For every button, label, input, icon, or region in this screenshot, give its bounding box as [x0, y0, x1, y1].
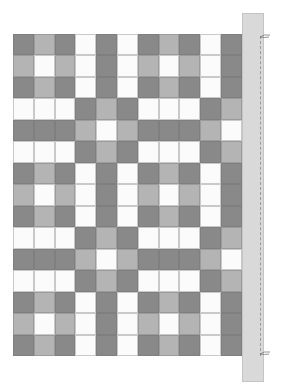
quilt-cell [75, 98, 96, 119]
quilt-cell [55, 77, 76, 98]
quilt-cell [221, 77, 242, 98]
quilt-cell [200, 120, 221, 141]
quilt-cell [55, 120, 76, 141]
quilt-cell [96, 206, 117, 227]
quilt-cell [221, 141, 242, 162]
quilt-cell [159, 270, 180, 291]
quilt-cell [159, 292, 180, 313]
quilt-cell [96, 120, 117, 141]
quilt-cell [96, 292, 117, 313]
quilt-cell [55, 163, 76, 184]
stitch-line [260, 36, 261, 356]
quilt-cell [179, 335, 200, 356]
quilt-cell [117, 270, 138, 291]
quilt-cell [138, 249, 159, 270]
quilt-cell [13, 335, 34, 356]
quilt-cell [34, 313, 55, 334]
quilt-cell [34, 120, 55, 141]
quilt-cell [96, 184, 117, 205]
quilt-cell [55, 227, 76, 248]
quilt-cell [221, 55, 242, 76]
quilt-cell [34, 98, 55, 119]
quilt-cell [75, 270, 96, 291]
quilt-cell [13, 249, 34, 270]
quilt-cell [96, 313, 117, 334]
quilt-cell [55, 292, 76, 313]
quilt-cell [55, 270, 76, 291]
quilt-cell [117, 141, 138, 162]
quilt-cell [221, 184, 242, 205]
quilt-cell [221, 249, 242, 270]
quilt-cell [96, 77, 117, 98]
quilt-cell [13, 141, 34, 162]
quilt-cell [117, 55, 138, 76]
quilt-cell [13, 98, 34, 119]
quilt-cell [96, 98, 117, 119]
quilt-cell [159, 206, 180, 227]
quilt-cell [34, 163, 55, 184]
quilt-cell [75, 34, 96, 55]
quilt-cell [138, 270, 159, 291]
quilt-cell [75, 120, 96, 141]
quilt-cell [221, 163, 242, 184]
quilt-cell [75, 77, 96, 98]
quilt-cell [159, 55, 180, 76]
quilt-cell [200, 206, 221, 227]
quilt-cell [34, 34, 55, 55]
quilt-cell [96, 335, 117, 356]
quilt-cell [96, 249, 117, 270]
quilt-cell [117, 335, 138, 356]
quilt-cell [13, 184, 34, 205]
quilt-cell [55, 141, 76, 162]
quilt-cell [200, 77, 221, 98]
quilt-cell [75, 227, 96, 248]
quilt-cell [138, 141, 159, 162]
quilt-cell [96, 141, 117, 162]
quilt-cell [34, 335, 55, 356]
quilt-cell [75, 184, 96, 205]
quilt-cell [221, 206, 242, 227]
quilt-cell [200, 270, 221, 291]
quilt-cell [159, 77, 180, 98]
quilt-cell [34, 227, 55, 248]
quilt-cell [138, 77, 159, 98]
quilt-cell [13, 206, 34, 227]
quilt-cell [138, 34, 159, 55]
quilt-cell [179, 55, 200, 76]
quilt-cell [159, 249, 180, 270]
quilt-cell [138, 313, 159, 334]
quilt-cell [159, 98, 180, 119]
quilt-cell [34, 292, 55, 313]
quilt-cell [55, 249, 76, 270]
quilt-cell [221, 34, 242, 55]
quilt-cell [117, 34, 138, 55]
quilt-cell [159, 335, 180, 356]
quilt-cell [221, 270, 242, 291]
quilt-cell [117, 184, 138, 205]
quilt-cell [75, 313, 96, 334]
quilt-cell [138, 227, 159, 248]
quilt-cell [159, 120, 180, 141]
thread-bottom-icon [259, 350, 271, 356]
quilt-cell [159, 313, 180, 334]
quilt-cell [117, 163, 138, 184]
quilt-cell [138, 335, 159, 356]
quilt-cell [138, 292, 159, 313]
quilt-cell [55, 184, 76, 205]
quilt-cell [117, 249, 138, 270]
quilt-cell [200, 313, 221, 334]
quilt-cell [179, 163, 200, 184]
quilt-cell [159, 184, 180, 205]
quilt-cell [117, 206, 138, 227]
quilt-cell [34, 270, 55, 291]
quilt-cell [200, 98, 221, 119]
quilt-cell [55, 206, 76, 227]
quilt-cell [179, 184, 200, 205]
quilt-cell [200, 227, 221, 248]
quilt-cell [34, 249, 55, 270]
quilt-cell [179, 206, 200, 227]
quilt-cell [96, 55, 117, 76]
quilt-cell [200, 184, 221, 205]
quilt-cell [13, 270, 34, 291]
quilt-cell [221, 292, 242, 313]
